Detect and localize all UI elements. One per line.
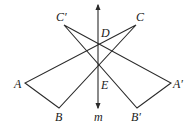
label-e: E <box>100 78 109 92</box>
label-b-prime: B′ <box>131 110 141 124</box>
label-a-prime: A′ <box>172 77 183 91</box>
triangle-abc <box>25 25 136 108</box>
label-c-prime: C′ <box>56 10 67 24</box>
label-b: B <box>55 110 63 124</box>
label-c: C <box>136 10 145 24</box>
reflection-diagram: C′ C D E A A′ B B′ m <box>0 0 195 125</box>
label-d: D <box>100 26 110 40</box>
label-m: m <box>94 110 103 124</box>
triangle-a-prime-b-prime-c-prime <box>64 25 171 108</box>
label-a: A <box>13 77 22 91</box>
